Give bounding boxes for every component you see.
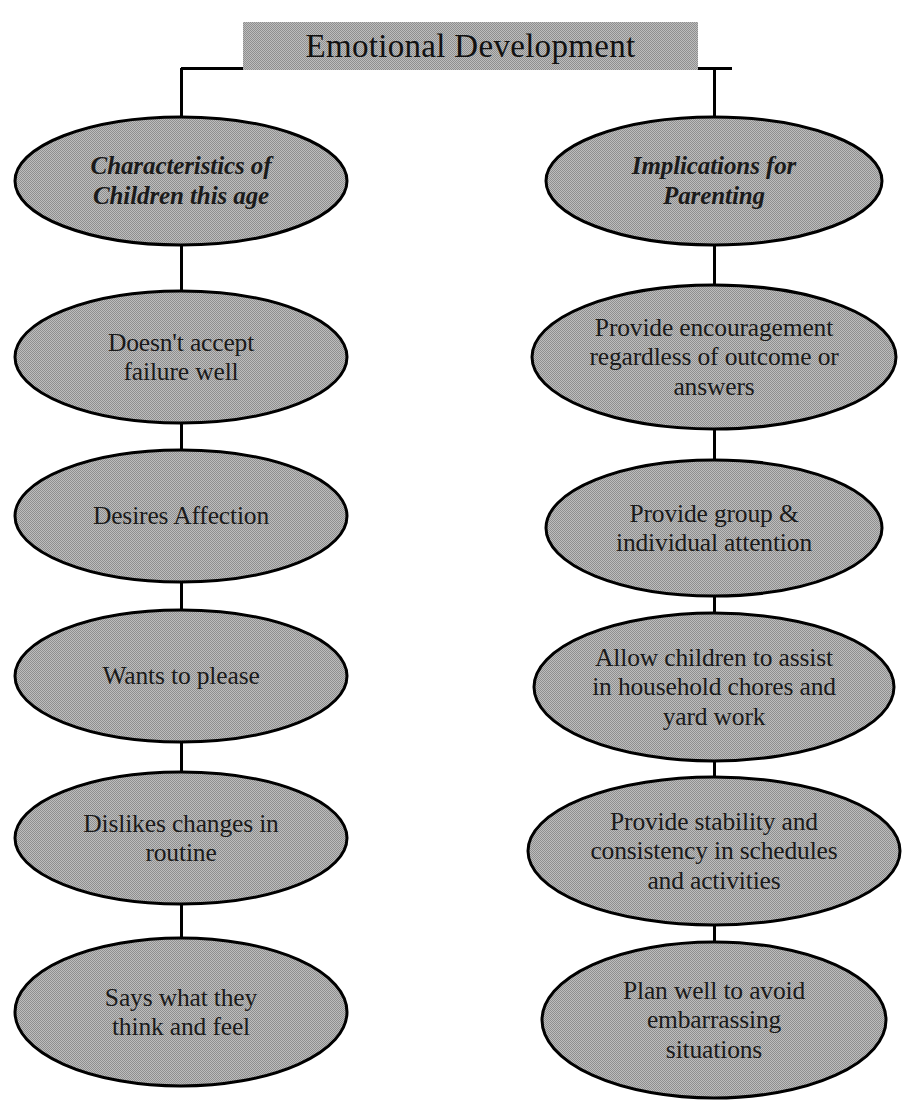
diagram-title: Emotional Development xyxy=(243,22,698,70)
diagram-canvas: Emotional Development Characteristics of… xyxy=(0,0,914,1116)
node-ellipse-right-5[interactable] xyxy=(542,942,886,1098)
node-ellipse-left-header[interactable] xyxy=(15,117,347,245)
ellipse-layer xyxy=(15,117,900,1098)
diagram-graphics xyxy=(0,0,914,1116)
node-ellipse-left-3[interactable] xyxy=(15,610,347,742)
node-ellipse-left-4[interactable] xyxy=(15,772,347,904)
node-ellipse-right-3[interactable] xyxy=(534,613,894,761)
node-ellipse-right-4[interactable] xyxy=(528,777,900,925)
node-ellipse-left-5[interactable] xyxy=(15,938,347,1086)
node-ellipse-left-1[interactable] xyxy=(15,291,347,423)
node-ellipse-left-2[interactable] xyxy=(15,450,347,582)
node-ellipse-right-2[interactable] xyxy=(546,460,882,596)
node-ellipse-right-1[interactable] xyxy=(532,285,896,429)
node-ellipse-right-header[interactable] xyxy=(546,117,882,245)
